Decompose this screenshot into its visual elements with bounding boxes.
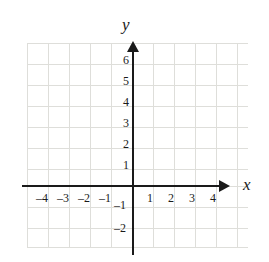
grid-line-vertical [237, 43, 238, 248]
y-axis-label: y [122, 16, 130, 33]
grid-line-horizontal [27, 64, 248, 65]
y-tick-label: 4 [111, 96, 129, 108]
y-tick-label: 1 [111, 159, 129, 171]
y-tick-label: –2 [108, 222, 126, 234]
grid [27, 43, 248, 248]
y-axis-arrow-icon [127, 41, 139, 52]
grid-line-horizontal [27, 247, 248, 248]
y-tick-label: 2 [111, 138, 129, 150]
grid-line-vertical [90, 43, 91, 248]
grid-line-vertical [174, 43, 175, 248]
y-tick-label: 3 [111, 117, 129, 129]
x-tick-label: –3 [54, 192, 72, 204]
coordinate-plane-figure: x y –4 –3 –2 –1 1 2 3 4 6 5 4 3 2 1 –1 –… [0, 0, 269, 262]
x-axis-arrow-icon [219, 180, 230, 192]
x-tick-label: –4 [33, 192, 51, 204]
x-tick-label: –2 [75, 192, 93, 204]
x-axis-label: x [243, 176, 251, 193]
y-axis [132, 46, 134, 255]
grid-line-horizontal [27, 228, 248, 229]
grid-line-horizontal [27, 169, 248, 170]
grid-line-horizontal [27, 148, 248, 149]
grid-line-vertical [48, 43, 49, 248]
grid-line-vertical [69, 43, 70, 248]
y-tick-label: 5 [111, 75, 129, 87]
grid-line-horizontal [27, 106, 248, 107]
grid-line-horizontal [27, 85, 248, 86]
y-tick-label: –1 [108, 199, 126, 211]
y-tick-label: 6 [111, 54, 129, 66]
x-tick-label: 2 [162, 192, 180, 204]
x-axis [22, 185, 225, 187]
grid-line-vertical [27, 43, 28, 248]
x-tick-label: 4 [204, 192, 222, 204]
grid-line-vertical [216, 43, 217, 248]
x-tick-label: 3 [183, 192, 201, 204]
grid-line-horizontal [27, 127, 248, 128]
x-tick-label: 1 [141, 192, 159, 204]
grid-line-vertical [153, 43, 154, 248]
grid-line-horizontal [27, 207, 248, 208]
grid-line-vertical [195, 43, 196, 248]
